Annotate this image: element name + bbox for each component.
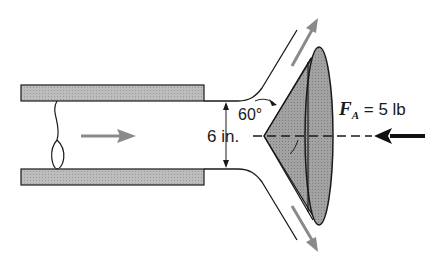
angle-label: 60° — [238, 106, 262, 124]
force-subscript: A — [352, 109, 359, 121]
force-label: FA = 5 lb — [339, 98, 406, 121]
applied-force-arrow — [374, 128, 425, 144]
nozzle-bottom-wall — [21, 169, 204, 185]
jet-streamline-top — [204, 30, 297, 101]
jet-diameter-label: 6 in. — [207, 127, 239, 147]
flow-direction-arrow — [81, 129, 136, 143]
nozzle-top-wall — [21, 85, 204, 101]
jet-streamline-bottom — [204, 169, 297, 240]
force-symbol: F — [339, 98, 352, 119]
force-value: = 5 lb — [359, 100, 406, 119]
break-line-icon — [52, 101, 64, 169]
